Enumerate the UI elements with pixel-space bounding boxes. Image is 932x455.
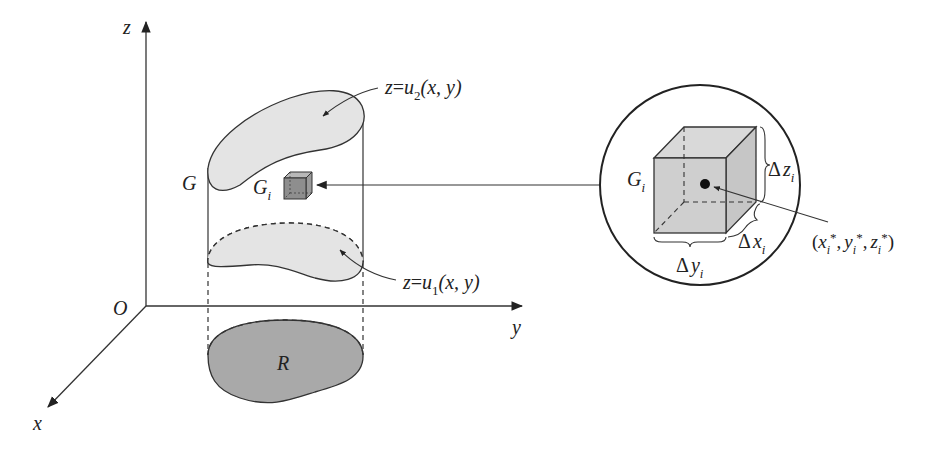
x-axis-label: x: [32, 412, 42, 434]
top-surface-equation: z=u2(x, y): [384, 76, 462, 103]
sample-point-dot: [700, 179, 710, 189]
sample-point-label: (xi*,yi*,zi*): [812, 230, 894, 257]
small-cube-gi: [284, 172, 312, 199]
bottom-surface-u1-front: [208, 223, 363, 281]
diagram-canvas: z y x O R G Gi z=u2(x, y) z=u1(x, y): [0, 0, 932, 455]
origin-label: O: [113, 297, 127, 319]
region-r-label: R: [276, 352, 289, 374]
x-axis: [48, 306, 146, 407]
y-axis-label: y: [510, 316, 521, 339]
large-cube: [654, 127, 756, 233]
small-cube-label: Gi: [253, 176, 271, 203]
z-axis-label: z: [122, 16, 131, 38]
bottom-surface-equation: z=u1(x, y): [402, 271, 480, 298]
solid-g-label: G: [182, 172, 197, 194]
